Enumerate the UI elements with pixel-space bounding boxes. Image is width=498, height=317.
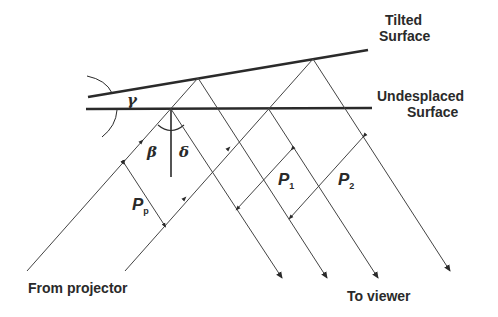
- p1-sub: 1: [289, 181, 294, 191]
- incoming-ray-2: [125, 59, 313, 271]
- fringe-projection-diagram: [0, 0, 498, 317]
- tilted-label-line2: Surface: [379, 28, 459, 44]
- tilted-label-line1: Tilted: [379, 12, 459, 28]
- incoming-ray-1-arrow: [140, 141, 142, 143]
- gamma-symbol: γ: [127, 91, 137, 109]
- delta-symbol: δ: [179, 143, 189, 161]
- pp-main: P: [132, 195, 143, 214]
- gamma-arc-upper: [87, 76, 112, 93]
- reflected-ray-1: [171, 109, 282, 278]
- incoming-ray-1: [27, 78, 198, 271]
- pp-symbol: Pp: [132, 195, 149, 216]
- p1-symbol: P1: [278, 170, 294, 191]
- incoming-ray-2-arrow: [183, 198, 185, 200]
- from-projector-label: From projector: [28, 280, 128, 296]
- p2-symbol: P2: [338, 170, 354, 191]
- beta-symbol: β: [147, 143, 157, 161]
- undisplaced-label-line2: Surface: [377, 104, 487, 120]
- p2-sub: 2: [349, 181, 354, 191]
- gamma-arc-lower: [102, 110, 117, 137]
- p1-main: P: [278, 170, 289, 189]
- incoming-ray-1-arrow-2: [122, 161, 124, 163]
- undisplaced-surface-label: Undesplaced Surface: [377, 88, 487, 120]
- undisplaced-label-line1: Undesplaced: [377, 88, 487, 104]
- tilted-surface-line: [88, 50, 368, 97]
- to-viewer-label: To viewer: [347, 288, 411, 304]
- incoming-ray-2-arrow-2: [227, 148, 229, 150]
- pp-sub: p: [143, 206, 149, 216]
- p2-main: P: [338, 170, 349, 189]
- tilted-surface-label: Tilted Surface: [379, 12, 459, 44]
